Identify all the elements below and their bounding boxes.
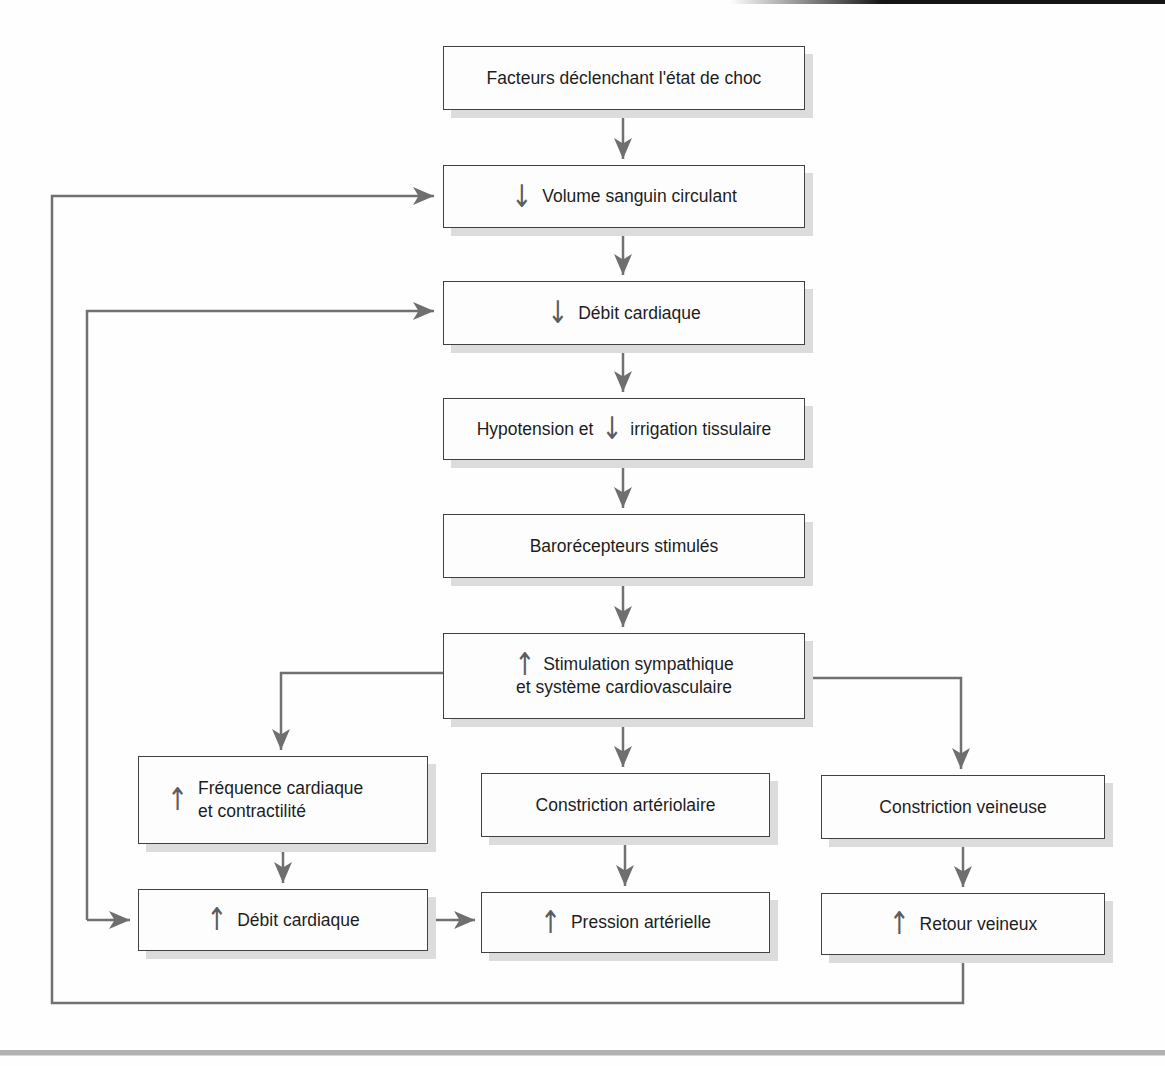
box-label: Pression artérielle [571,911,711,934]
box-frequence-cardiaque: ↑ Fréquence cardiaque et contractilité [138,756,428,844]
box-stimulation-sympathique: ↑ Stimulation sympathique et système car… [443,633,805,719]
box-label: Barorécepteurs stimulés [530,535,719,558]
box-debit-cardiaque-augmente: ↑ Débit cardiaque [138,889,428,951]
box-constriction-arteriolaire: Constriction artériolaire [481,773,770,837]
box-label-line2: et contractilité [198,800,363,823]
box-constriction-veineuse: Constriction veineuse [821,775,1105,839]
box-label-pre: Hypotension et [477,418,594,441]
box-label-line2: et système cardiovasculaire [514,676,734,699]
box-debit-cardiaque-diminue: ↓ Débit cardiaque [443,281,805,345]
box-pression-arterielle: ↑ Pression artérielle [481,892,770,953]
box-label-line1: Stimulation sympathique [543,653,734,676]
box-label: Retour veineux [920,913,1038,936]
box-label-lines: ↑ Stimulation sympathique et système car… [514,653,734,699]
page-bottom-rule [0,1050,1165,1055]
box-hypotension-irrigation: Hypotension et ↓ irrigation tissulaire [443,398,805,460]
connector-stimulation-to-frequence [281,673,443,750]
box-label: Facteurs déclenchant l'état de choc [487,67,762,90]
flowchart-page: Facteurs déclenchant l'état de choc ↓ Vo… [0,0,1165,1066]
box-label: Constriction artériolaire [536,794,716,817]
box-label-lines: Fréquence cardiaque et contractilité [198,777,363,823]
box-label: Volume sanguin circulant [542,185,737,208]
box-volume-sanguin: ↓ Volume sanguin circulant [443,165,805,228]
box-label-line1: Fréquence cardiaque [198,777,363,800]
box-barorecepteurs: Barorécepteurs stimulés [443,514,805,578]
box-retour-veineux: ↑ Retour veineux [821,893,1105,955]
box-label: Débit cardiaque [237,909,360,932]
connector-stimulation-to-constriction-veineuse [805,678,961,769]
box-label-post: irrigation tissulaire [630,418,771,441]
box-label: Constriction veineuse [879,796,1046,819]
box-label: Débit cardiaque [578,302,701,325]
box-facteurs-declenchant: Facteurs déclenchant l'état de choc [443,46,805,110]
